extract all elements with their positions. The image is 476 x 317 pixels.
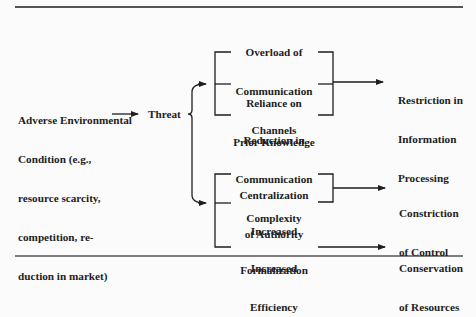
text-line: Constriction — [399, 207, 459, 220]
threat-brace — [188, 84, 205, 203]
text-line: Information — [398, 133, 463, 146]
text-line: Increased — [224, 262, 324, 275]
text-line: duction in market) — [18, 270, 132, 283]
text-line: Reduction in — [224, 134, 324, 147]
text-line: Restriction in — [398, 94, 463, 107]
text-line: Overload of — [224, 46, 324, 59]
text-line: competition, re- — [18, 231, 132, 244]
text-line: Adverse Environmental — [18, 114, 132, 127]
text-line: Condition (e.g., — [18, 153, 132, 166]
outcome-restriction: Restriction in Information Processing — [398, 68, 463, 198]
text-line: Conservation — [399, 262, 463, 275]
outcome-conservation: Conservation of Resources — [399, 236, 463, 317]
text-line: resource scarcity, — [18, 192, 132, 205]
source-condition: Adverse Environmental Condition (e.g., r… — [18, 88, 132, 296]
text-line: of Resources — [399, 301, 463, 314]
threat-label: Threat — [148, 108, 181, 121]
response-efficiency: Increased Efficiency — [224, 236, 324, 317]
text-line: Efficiency — [224, 301, 324, 314]
